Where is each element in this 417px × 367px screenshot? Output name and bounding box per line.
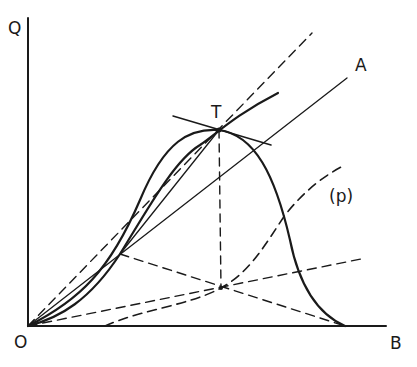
label-b: B: [390, 335, 402, 352]
tangent-line: [173, 116, 271, 145]
dashed-to-b-intercept: [120, 254, 345, 326]
dashed-p-curve: [105, 165, 345, 326]
dashed-ray-steep: [28, 33, 312, 326]
point-intersection: [219, 286, 223, 290]
dashed-vertical: [219, 130, 221, 288]
point-t: [217, 128, 222, 133]
label-t: T: [211, 104, 221, 121]
label-a: A: [355, 57, 367, 74]
label-o: O: [14, 334, 27, 351]
label-q: Q: [8, 20, 21, 37]
bell-curve: [28, 130, 345, 326]
ray-oa: [28, 78, 347, 326]
diagram-canvas: Q B O T A (p): [0, 0, 417, 367]
upper-curve: [28, 93, 278, 326]
label-p: (p): [329, 188, 353, 205]
